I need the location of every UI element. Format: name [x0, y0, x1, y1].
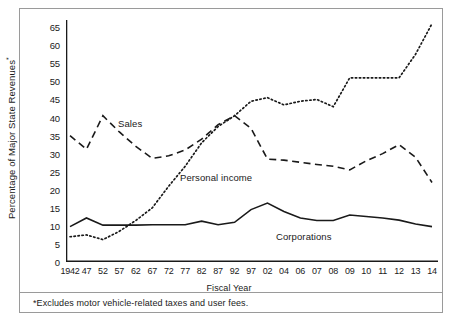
x-axis-tick-label: 52 — [98, 266, 108, 276]
x-axis-tick-label: 92 — [230, 266, 240, 276]
x-axis-tick-label: 14 — [427, 266, 437, 276]
plot-area — [66, 20, 438, 262]
y-axis-tick-label: 35 — [40, 130, 60, 141]
x-axis-tick-label: 02 — [263, 266, 273, 276]
y-axis-tick-label: 30 — [40, 148, 60, 159]
x-axis-tick-label: 06 — [296, 266, 306, 276]
y-axis-title-footnote-marker: * — [5, 57, 12, 60]
x-axis-tick-label: 10 — [361, 266, 371, 276]
y-axis-tick-label: 45 — [40, 94, 60, 105]
series-label-corporations: Corporations — [276, 231, 332, 242]
y-axis-tick-label: 25 — [40, 166, 60, 177]
x-axis-tick-label: 47 — [82, 266, 92, 276]
x-axis-tick-label: 67 — [147, 266, 157, 276]
plot-svg — [66, 20, 438, 262]
y-axis-tick-label: 15 — [40, 202, 60, 213]
x-axis-tick-label: 04 — [279, 266, 289, 276]
x-axis-tick-label: 07 — [312, 266, 322, 276]
y-axis-tick-label: 65 — [40, 22, 60, 33]
x-axis-tick-label: 62 — [131, 266, 141, 276]
x-axis-tick-label: 97 — [246, 266, 256, 276]
series-lines — [70, 24, 432, 240]
footnote-text: *Excludes motor vehicle-related taxes an… — [33, 298, 248, 308]
y-axis-tick-label: 60 — [40, 40, 60, 51]
x-axis-tick-label: 1942 — [60, 266, 79, 276]
y-axis-title: Percentage of Major State Revenues* — [5, 0, 17, 283]
series-label-sales: Sales — [118, 118, 142, 129]
x-axis-tick-label: 12 — [394, 266, 404, 276]
y-axis-tick-label: 5 — [40, 238, 60, 249]
y-axis-title-text: Percentage of Major State Revenues — [6, 60, 17, 219]
x-axis-tick-label: 57 — [115, 266, 125, 276]
x-axis-tick-label: 77 — [180, 266, 190, 276]
chart-figure: Percentage of Major State Revenues* 0510… — [0, 0, 458, 328]
x-axis-tick-label: 11 — [378, 266, 387, 276]
x-axis-tick-label: 72 — [164, 266, 174, 276]
x-axis-tick-label: 82 — [197, 266, 207, 276]
x-axis-tick-labels: 1942475257626772778287929702040607080910… — [0, 266, 458, 280]
y-axis-tick-label: 20 — [40, 184, 60, 195]
y-axis-tick-label: 55 — [40, 58, 60, 69]
y-axis-tick-label: 40 — [40, 112, 60, 123]
series-line-personal-income — [70, 24, 432, 240]
series-label-personal-income: Personal income — [180, 172, 252, 183]
x-axis-tick-label: 09 — [345, 266, 355, 276]
y-axis-tick-labels: 05101520253035404550556065 — [38, 20, 60, 262]
series-line-corporations — [70, 203, 432, 226]
x-axis-tick-label: 08 — [328, 266, 338, 276]
footnote-divider — [20, 292, 442, 293]
y-axis-tick-label: 10 — [40, 220, 60, 231]
x-axis-tick-label: 13 — [411, 266, 421, 276]
x-axis-tick-label: 87 — [213, 266, 223, 276]
y-axis-tick-label: 50 — [40, 76, 60, 87]
